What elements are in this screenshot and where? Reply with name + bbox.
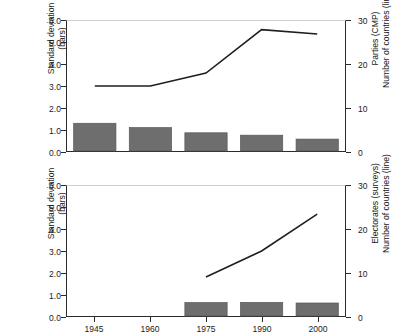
y-tick-mark-right <box>346 64 351 65</box>
y-tick-label-right: 20 <box>358 226 384 235</box>
x-tick-mark <box>150 317 151 322</box>
y-tick-label-right: 30 <box>358 182 384 191</box>
plot-graphics-bottom <box>67 186 345 316</box>
x-tick-label: 1975 <box>186 325 226 334</box>
plot-graphics-top <box>67 21 345 151</box>
y-tick-mark-right <box>346 152 351 153</box>
series-line <box>206 214 317 277</box>
y-tick-mark-right <box>346 185 351 186</box>
y-tick-label-left: 3.0 <box>21 248 61 257</box>
x-tick-mark <box>262 317 263 322</box>
y-tick-label-right: 20 <box>358 61 384 70</box>
y-tick-mark-right <box>346 273 351 274</box>
bar <box>296 139 338 151</box>
y-tick-label-left: 1.0 <box>21 292 61 301</box>
bar <box>240 302 282 316</box>
y-tick-mark-right <box>346 20 351 21</box>
y-tick-label-left: 4.0 <box>21 61 61 70</box>
y-tick-label-left: 6.0 <box>21 17 61 26</box>
x-tick-label: 1945 <box>74 325 114 334</box>
y-tick-label-left: 5.0 <box>21 204 61 213</box>
y-tick-label-left: 2.0 <box>21 270 61 279</box>
plot-area-top <box>66 20 346 152</box>
y-tick-label-left: 1.0 <box>21 127 61 136</box>
y-tick-label-left: 4.0 <box>21 226 61 235</box>
y-tick-label-right: 10 <box>358 270 384 279</box>
bar <box>240 135 282 151</box>
y-tick-label-right: 30 <box>358 17 384 26</box>
bar <box>185 303 227 316</box>
y-axis-title-right: Electorates (surveys) Number of countrie… <box>370 144 391 264</box>
x-tick-mark <box>206 317 207 322</box>
y-axis-title-right-line2: Number of countries (line) <box>380 0 391 99</box>
x-tick-mark <box>94 317 95 322</box>
y-tick-mark-right <box>346 229 351 230</box>
y-axis-title-right: Parties (CMP) Number of countries (line) <box>370 0 391 99</box>
chart-panel-top: Standard deviation (bars) Parties (CMP) … <box>0 0 409 165</box>
x-tick-label: 2000 <box>298 325 338 334</box>
y-axis-title-right-line2: Number of countries (line) <box>380 144 391 264</box>
bar <box>185 133 227 151</box>
y-tick-mark-right <box>346 317 351 318</box>
series-line <box>95 30 317 86</box>
bar <box>74 123 116 151</box>
y-tick-label-left: 0.0 <box>21 314 61 323</box>
plot-area-bottom <box>66 185 346 317</box>
y-tick-label-left: 5.0 <box>21 39 61 48</box>
y-tick-mark-left <box>61 317 66 318</box>
y-tick-label-left: 2.0 <box>21 105 61 114</box>
bar <box>296 303 338 316</box>
x-tick-label: 1960 <box>130 325 170 334</box>
chart-panel-bottom: Standard deviation (bars) Electorates (s… <box>0 165 409 330</box>
bar <box>129 128 171 151</box>
y-tick-label-right: 10 <box>358 105 384 114</box>
y-tick-mark-right <box>346 108 351 109</box>
y-tick-label-right: 0 <box>358 314 384 323</box>
x-tick-label: 1990 <box>242 325 282 334</box>
x-tick-mark <box>318 317 319 322</box>
y-tick-label-left: 6.0 <box>21 182 61 191</box>
y-tick-label-left: 3.0 <box>21 83 61 92</box>
